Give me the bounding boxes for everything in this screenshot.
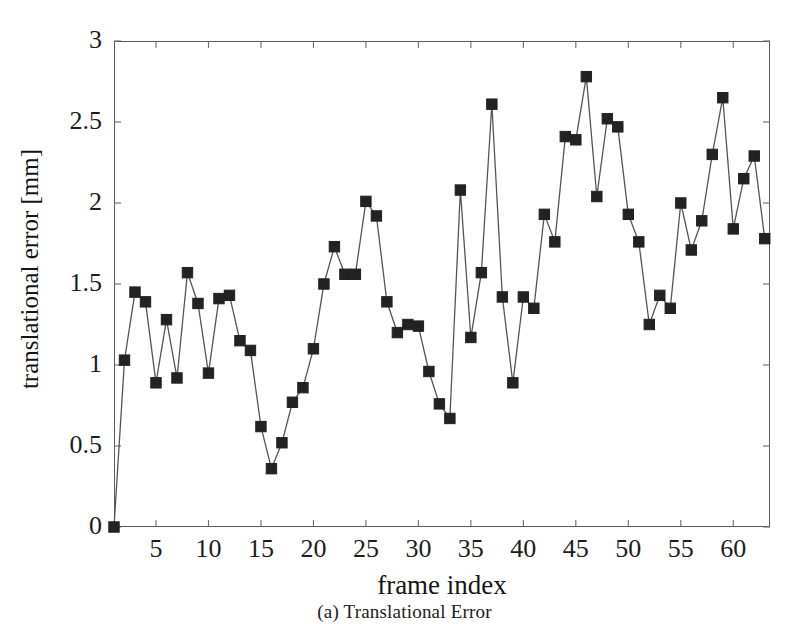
x-tick-label: 10 bbox=[178, 536, 238, 562]
x-tick-label: 15 bbox=[231, 536, 291, 562]
x-tick-label: 25 bbox=[336, 536, 396, 562]
data-point-marker bbox=[560, 131, 570, 141]
x-tick-label: 5 bbox=[126, 536, 186, 562]
data-point-marker bbox=[172, 373, 182, 383]
data-point-marker bbox=[487, 99, 497, 109]
data-point-marker bbox=[518, 292, 528, 302]
data-point-marker bbox=[361, 196, 371, 206]
plot-area bbox=[114, 41, 770, 527]
data-point-marker bbox=[319, 279, 329, 289]
x-axis-title: frame index bbox=[114, 570, 770, 601]
data-point-marker bbox=[581, 71, 591, 81]
data-point-marker bbox=[308, 344, 318, 354]
data-point-marker bbox=[119, 355, 129, 365]
data-point-marker bbox=[455, 185, 465, 195]
data-point-marker bbox=[749, 151, 759, 161]
data-point-marker bbox=[644, 319, 654, 329]
x-tick-label: 30 bbox=[388, 536, 448, 562]
data-point-marker bbox=[392, 327, 402, 337]
data-point-marker bbox=[550, 237, 560, 247]
data-point-marker bbox=[728, 224, 738, 234]
data-point-marker bbox=[718, 93, 728, 103]
data-point-marker bbox=[193, 298, 203, 308]
data-point-marker bbox=[224, 290, 234, 300]
data-point-marker bbox=[434, 399, 444, 409]
data-point-marker bbox=[214, 293, 224, 303]
data-point-marker bbox=[371, 211, 381, 221]
data-point-marker bbox=[529, 303, 539, 313]
x-tick-label: 55 bbox=[651, 536, 711, 562]
y-tick-label: 0.5 bbox=[70, 432, 103, 458]
data-point-marker bbox=[623, 209, 633, 219]
x-tick-label: 45 bbox=[546, 536, 606, 562]
x-tick-label: 60 bbox=[703, 536, 763, 562]
figure-caption: (a) Translational Error bbox=[0, 601, 809, 623]
data-point-marker bbox=[161, 314, 171, 324]
data-point-marker bbox=[151, 378, 161, 388]
data-point-marker bbox=[287, 397, 297, 407]
data-point-marker bbox=[760, 233, 770, 243]
y-axis-title: translational error [mm] bbox=[16, 29, 44, 509]
data-point-marker bbox=[592, 191, 602, 201]
y-tick-label: 2.5 bbox=[70, 108, 103, 134]
x-tick-label: 20 bbox=[283, 536, 343, 562]
data-point-marker bbox=[277, 438, 287, 448]
data-point-marker bbox=[298, 382, 308, 392]
data-point-marker bbox=[140, 297, 150, 307]
data-point-marker bbox=[508, 378, 518, 388]
data-point-marker bbox=[634, 237, 644, 247]
data-point-marker bbox=[413, 321, 423, 331]
data-point-marker bbox=[350, 269, 360, 279]
data-point-marker bbox=[602, 114, 612, 124]
data-series-layer bbox=[114, 41, 770, 527]
x-tick-label: 50 bbox=[598, 536, 658, 562]
x-tick-label: 35 bbox=[441, 536, 501, 562]
data-point-marker bbox=[403, 319, 413, 329]
data-point-marker bbox=[109, 522, 119, 532]
data-point-marker bbox=[256, 421, 266, 431]
data-point-marker bbox=[266, 463, 276, 473]
data-point-marker bbox=[182, 267, 192, 277]
y-tick-label: 1.5 bbox=[70, 270, 103, 296]
data-point-marker bbox=[686, 245, 696, 255]
data-point-marker bbox=[445, 413, 455, 423]
data-point-marker bbox=[235, 336, 245, 346]
data-point-marker bbox=[571, 135, 581, 145]
data-point-marker bbox=[329, 242, 339, 252]
data-point-marker bbox=[130, 287, 140, 297]
series-line bbox=[114, 77, 765, 527]
data-point-marker bbox=[613, 122, 623, 132]
data-point-marker bbox=[697, 216, 707, 226]
data-point-marker bbox=[466, 332, 476, 342]
data-point-marker bbox=[739, 174, 749, 184]
data-point-marker bbox=[382, 297, 392, 307]
data-point-marker bbox=[245, 345, 255, 355]
data-point-marker bbox=[655, 290, 665, 300]
y-tick-label: 0 bbox=[89, 513, 102, 539]
data-point-marker bbox=[203, 368, 213, 378]
data-point-marker bbox=[539, 209, 549, 219]
data-point-marker bbox=[476, 267, 486, 277]
data-point-marker bbox=[665, 303, 675, 313]
y-tick-label: 2 bbox=[89, 189, 102, 215]
x-tick-label: 40 bbox=[493, 536, 553, 562]
y-tick-label: 3 bbox=[89, 27, 102, 53]
data-point-marker bbox=[497, 292, 507, 302]
data-point-marker bbox=[707, 149, 717, 159]
data-point-marker bbox=[676, 198, 686, 208]
data-point-marker bbox=[340, 269, 350, 279]
figure-translational-error: 00.511.522.53 translational error [mm] 5… bbox=[0, 0, 809, 640]
data-point-marker bbox=[424, 366, 434, 376]
y-tick-label: 1 bbox=[89, 351, 102, 377]
